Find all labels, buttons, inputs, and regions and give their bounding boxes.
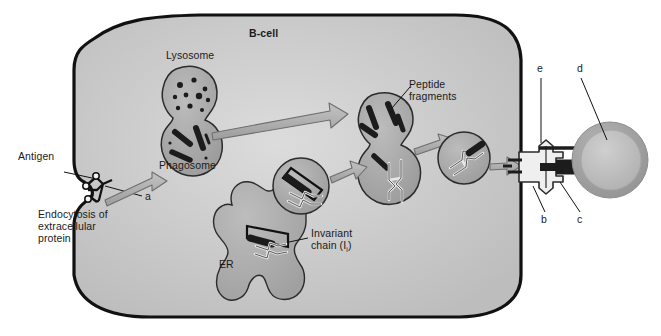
figure-canvas: B-cell Lysosome Phagosome Antigen Endocy… [0, 0, 661, 336]
label-endocytosis-line2: extracellular [38, 220, 96, 232]
t-helper-cell [572, 122, 648, 198]
label-peptide-line2: fragments [409, 90, 457, 102]
callout-b: b [541, 213, 547, 225]
diagram-svg [0, 0, 661, 336]
label-er: ER [219, 258, 234, 270]
label-invariant-main: chain (I [311, 239, 346, 251]
callout-c: c [577, 213, 582, 225]
label-phagosome: Phagosome [159, 159, 216, 171]
label-antigen: Antigen [18, 150, 54, 162]
label-invariant-tail: ) [348, 239, 352, 251]
er-budding-vesicle [273, 158, 329, 214]
label-peptide-line1: Peptide [409, 78, 445, 90]
callout-e: e [537, 62, 543, 74]
label-invariant-line1: Invariant [311, 227, 352, 239]
label-endocytosis-line3: protein [38, 232, 71, 244]
page-title: B-cell [249, 27, 278, 39]
callout-d: d [577, 62, 583, 74]
label-lysosome: Lysosome [166, 49, 214, 61]
transport-vesicle [438, 132, 490, 184]
callout-a: a [145, 190, 151, 202]
label-invariant-line2: chain (Ii) [311, 239, 352, 254]
immunological-synapse [503, 78, 648, 212]
label-endocytosis-line1: Endocytosis of [38, 208, 108, 220]
